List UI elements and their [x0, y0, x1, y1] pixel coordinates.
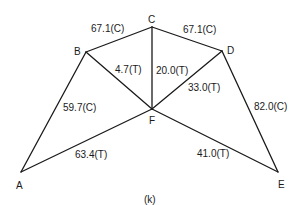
node-labels: ABCDEF	[16, 14, 285, 191]
node-label-a: A	[16, 180, 23, 191]
truss-diagram: 59.7(C)67.1(C)67.1(C)82.0(C)63.4(T)41.0(…	[0, 0, 297, 205]
member-bf	[86, 52, 152, 109]
member-af	[21, 109, 152, 172]
member-fe	[152, 109, 278, 172]
truss-members	[21, 27, 278, 172]
force-label-ab: 59.7(C)	[63, 102, 96, 113]
node-label-b: B	[74, 46, 81, 57]
node-label-d: D	[227, 45, 234, 56]
force-label-de: 82.0(C)	[254, 101, 287, 112]
force-label-cf: 20.0(T)	[156, 65, 188, 76]
figure-caption: (k)	[144, 194, 156, 205]
force-label-bf: 4.7(T)	[115, 64, 142, 75]
force-label-fe: 41.0(T)	[197, 148, 229, 159]
force-label-af: 63.4(T)	[75, 149, 107, 160]
force-label-bc: 67.1(C)	[91, 23, 124, 34]
force-label-cd: 67.1(C)	[183, 24, 216, 35]
member-df	[152, 51, 222, 109]
node-label-c: C	[148, 14, 155, 25]
member-force-labels: 59.7(C)67.1(C)67.1(C)82.0(C)63.4(T)41.0(…	[63, 23, 287, 160]
node-label-e: E	[278, 179, 285, 190]
node-label-f: F	[149, 115, 155, 126]
force-label-df: 33.0(T)	[188, 82, 220, 93]
